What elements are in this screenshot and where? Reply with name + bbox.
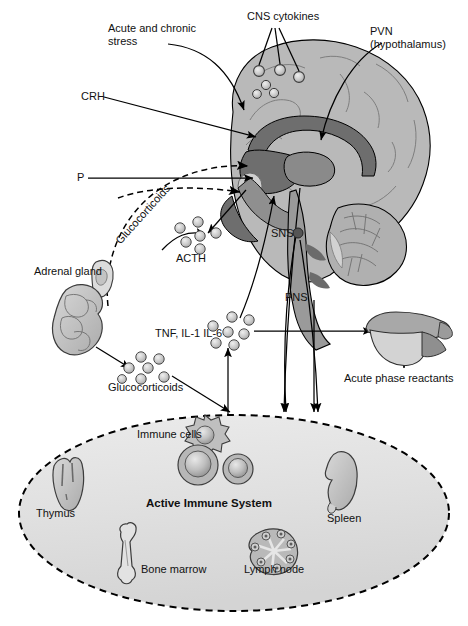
diagram-graphics: [0, 0, 468, 626]
label-sns: SNS: [271, 227, 294, 240]
label-p: P: [77, 171, 84, 184]
label-active-immune-system: Active Immune System: [146, 497, 272, 510]
label-bone-marrow: Bone marrow: [141, 563, 206, 576]
label-cns-cytokines: CNS cytokines: [247, 10, 319, 23]
diagram-canvas: Acute and chronic stress CNS cytokines P…: [0, 0, 468, 626]
label-acute-chronic-stress: Acute and chronic stress: [108, 22, 196, 48]
label-acute-phase-reactants: Acute phase reactants: [344, 372, 453, 385]
label-immune-cells: Immune cells: [137, 428, 202, 441]
brain: [221, 40, 430, 350]
label-glucocorticoids: Glucocorticoids: [108, 381, 183, 394]
liver: [366, 312, 452, 365]
label-lymph-node: Lymph node: [244, 563, 304, 576]
label-pvn: PVN (hypothalamus): [370, 25, 446, 51]
label-spleen: Spleen: [327, 512, 361, 525]
glucocorticoid-dots: [118, 352, 170, 384]
label-acth: ACTH: [176, 252, 206, 265]
active-immune-system-boundary: [19, 415, 449, 611]
label-pns: PNS: [285, 291, 308, 304]
label-adrenal-gland: Adrenal gland: [34, 265, 102, 278]
label-cytokines: TNF, IL-1 IL-6: [155, 327, 222, 340]
label-crh: CRH: [81, 90, 105, 103]
sns-dot: [293, 228, 303, 238]
label-thymus: Thymus: [36, 507, 75, 520]
